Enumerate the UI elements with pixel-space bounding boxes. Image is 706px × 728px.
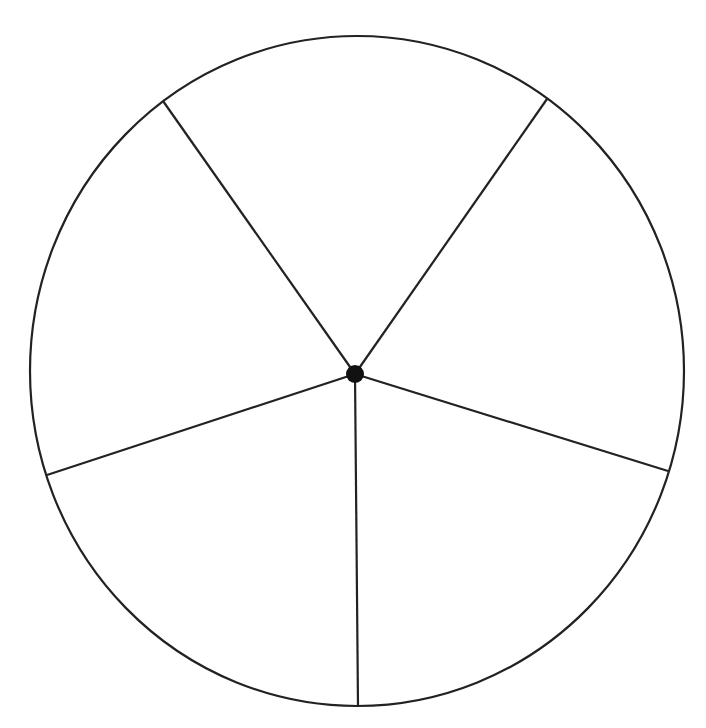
spoke-line-1 bbox=[163, 101, 355, 374]
spoke-line-2 bbox=[355, 99, 547, 374]
center-dot bbox=[346, 365, 364, 383]
spoke-line-3 bbox=[355, 374, 668, 471]
spoke-line-4 bbox=[355, 374, 358, 706]
spoke-line-5 bbox=[47, 374, 355, 475]
spokes-group bbox=[47, 99, 668, 706]
sector-diagram bbox=[0, 0, 706, 728]
